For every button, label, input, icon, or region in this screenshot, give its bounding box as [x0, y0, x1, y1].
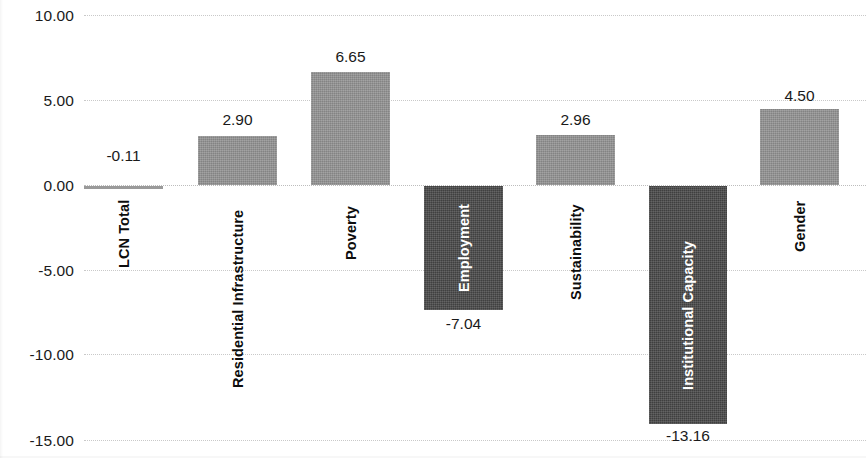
plot-area: -0.11 LCN Total 2.90 Residential Infrast…: [84, 0, 866, 458]
bar-value-employment: -7.04: [424, 316, 503, 332]
category-label-lcn-total: LCN Total: [117, 200, 132, 268]
category-label-employment: Employment: [457, 204, 472, 292]
bar-value-poverty: 6.65: [311, 49, 390, 65]
bar-lcn-total[interactable]: [84, 186, 163, 189]
y-axis-tick-neg15: -15.00: [0, 433, 74, 449]
gridline-neg15: [84, 440, 866, 441]
category-label-gender: Gender: [793, 201, 808, 252]
y-axis-tick-5: 5.00: [0, 93, 74, 109]
bar-value-sustainability: 2.96: [536, 112, 615, 128]
gridline-neg10: [84, 354, 866, 355]
gridline-10: [84, 15, 866, 16]
bar-value-residential-infrastructure: 2.90: [198, 112, 277, 128]
scan-artifact-left: [0, 0, 3, 458]
category-label-institutional-capacity: Institutional Capacity: [681, 241, 696, 390]
bar-value-gender: 4.50: [760, 88, 839, 104]
y-axis-tick-neg5: -5.00: [0, 263, 74, 279]
gridline-5: [84, 100, 866, 101]
category-label-sustainability: Sustainability: [569, 204, 584, 300]
bar-sustainability[interactable]: [536, 135, 615, 185]
category-label-residential-infrastructure: Residential Infrastructure: [231, 210, 246, 388]
bar-residential-infrastructure[interactable]: [198, 136, 277, 185]
bar-value-lcn-total: -0.11: [84, 148, 163, 164]
y-axis-tick-neg10: -10.00: [0, 347, 74, 363]
y-axis-tick-0: 0.00: [0, 178, 74, 194]
bar-chart: 10.00 5.00 0.00 -5.00 -10.00 -15.00 -0.1…: [0, 0, 866, 458]
category-label-poverty: Poverty: [344, 206, 359, 260]
bar-poverty[interactable]: [311, 72, 390, 185]
bar-gender[interactable]: [760, 109, 839, 185]
bar-value-institutional-capacity: -13.16: [649, 428, 727, 444]
y-axis-tick-10: 10.00: [0, 8, 74, 24]
